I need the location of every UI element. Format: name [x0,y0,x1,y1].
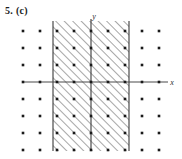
lattice-dot [56,115,59,118]
lattice-dot [56,149,59,152]
lattice-dot [73,149,76,152]
lattice-dot [107,81,110,84]
lattice-dot [73,132,76,135]
lattice-dot [39,30,42,33]
lattice-dot [124,47,127,50]
lattice-dot [39,64,42,67]
lattice-dot [107,132,110,135]
lattice-dot [158,132,161,135]
lattice-dot [90,132,93,135]
lattice-dot [22,115,25,118]
lattice-dot [39,132,42,135]
lattice-dot [158,98,161,101]
lattice-dot [90,149,93,152]
lattice-dot [124,149,127,152]
lattice-dot [124,81,127,84]
lattice-dot [107,98,110,101]
y-axis-label: y [91,12,96,21]
lattice-dot [107,115,110,118]
lattice-dot [141,149,144,152]
lattice-dot [124,115,127,118]
lattice-dot [56,30,59,33]
lattice-dot [90,47,93,50]
lattice-dot [39,115,42,118]
lattice-dot [158,115,161,118]
lattice-dot [158,149,161,152]
lattice-dot [107,30,110,33]
lattice-dot [22,30,25,33]
lattice-dot [141,81,144,84]
lattice-dot [56,47,59,50]
lattice-dot [90,115,93,118]
lattice-dot [39,98,42,101]
lattice-dot [124,30,127,33]
lattice-dot [39,149,42,152]
lattice-dot [56,81,59,84]
lattice-dot [22,98,25,101]
lattice-dot [39,47,42,50]
lattice-dot [73,81,76,84]
lattice-dot [56,64,59,67]
lattice-dot [90,64,93,67]
lattice-dot [22,64,25,67]
lattice-dot [141,132,144,135]
x-axis-label: x [169,78,174,87]
lattice-dot [22,81,25,84]
lattice-dot [90,81,93,84]
lattice-dot [158,81,161,84]
lattice-dot [73,47,76,50]
lattice-dot [124,98,127,101]
lattice-dot [141,47,144,50]
lattice-dot [141,115,144,118]
lattice-dot [90,30,93,33]
lattice-dot [90,98,93,101]
lattice-dot [22,47,25,50]
lattice-dot [56,98,59,101]
lattice-dot [73,30,76,33]
lattice-dot [158,30,161,33]
lattice-dot [22,149,25,152]
lattice-dot [22,132,25,135]
lattice-dot [141,98,144,101]
lattice-dot [124,64,127,67]
lattice-dot [73,115,76,118]
lattice-dot [56,132,59,135]
lattice-dot [39,81,42,84]
lattice-dot [124,132,127,135]
coordinate-lattice-figure: x y [0,0,182,159]
lattice-dot [158,64,161,67]
lattice-dot [107,47,110,50]
lattice-dot [73,64,76,67]
lattice-dot [141,64,144,67]
lattice-dot [158,47,161,50]
lattice-dot [73,98,76,101]
lattice-dot [107,149,110,152]
lattice-dot [141,30,144,33]
lattice-dot [107,64,110,67]
